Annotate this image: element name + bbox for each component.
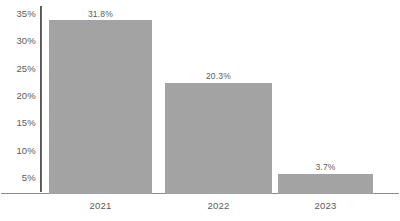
bar-chart: 35% 30% 25% 20% 15% 10% 5% 31.8% 20.3% 3… (0, 0, 400, 221)
x-axis-label-2023: 2023 (278, 201, 373, 211)
bar-value-label-2023: 3.7% (278, 163, 373, 172)
bar-2021[interactable] (49, 20, 152, 194)
bar-value-label-2021: 31.8% (49, 10, 152, 19)
bar-2023[interactable] (278, 174, 373, 194)
bar-2022[interactable] (165, 83, 272, 194)
x-axis-label-2021: 2021 (49, 201, 152, 211)
bar-value-label-2022: 20.3% (165, 72, 272, 81)
x-axis-label-2022: 2022 (165, 201, 272, 211)
